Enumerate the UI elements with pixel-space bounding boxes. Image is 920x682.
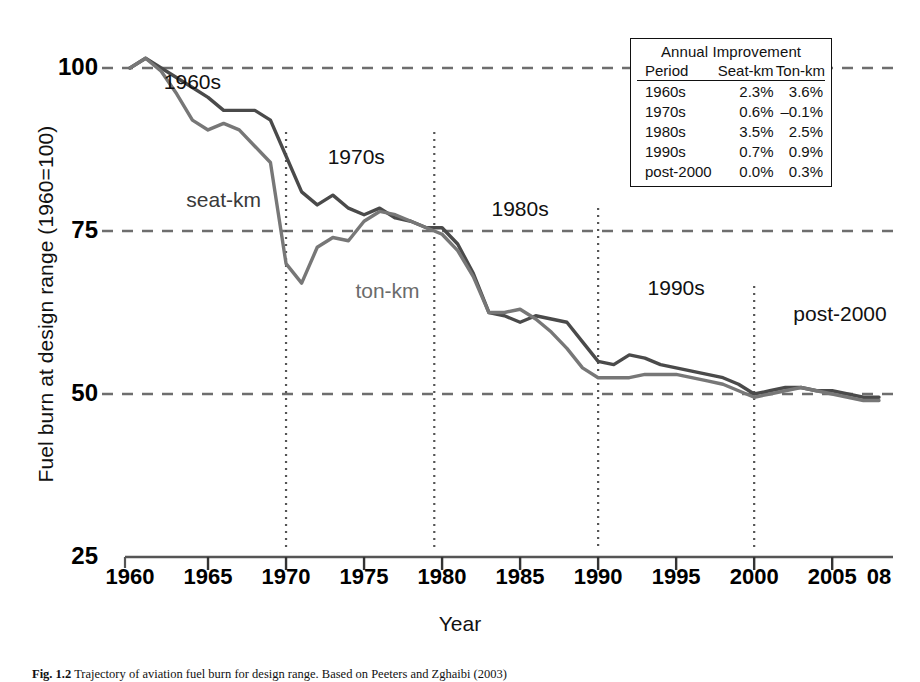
- legend-cell-ton-km: 0.9%: [774, 141, 825, 161]
- legend-cell-seat-km: 0.0%: [715, 161, 773, 181]
- y-tick-label-75: 75: [2, 218, 98, 242]
- legend-title: Annual Improvement: [637, 42, 825, 62]
- legend-header-row: Period Seat-km Ton-km: [637, 62, 825, 81]
- legend-row: 1970s0.6%–0.1%: [637, 101, 825, 121]
- x-tick-label-1985: 1985: [480, 566, 560, 588]
- y-tick-label-25: 25: [2, 544, 98, 568]
- legend-row: 1960s2.3%3.6%: [637, 81, 825, 102]
- figure-root: Fuel burn at design range (1960=100) Yea…: [0, 0, 920, 682]
- legend-cell-seat-km: 0.6%: [715, 101, 773, 121]
- legend-row: 1980s3.5%2.5%: [637, 121, 825, 141]
- period-label-1960s: 1960s: [164, 70, 221, 94]
- legend-row: post-20000.0%0.3%: [637, 161, 825, 181]
- x-tick-label-2000: 2000: [714, 566, 794, 588]
- period-label-1990s: 1990s: [648, 276, 705, 300]
- x-tick-label-2008: 08: [839, 566, 919, 588]
- period-label-1980s: 1980s: [491, 197, 548, 221]
- legend-col-ton-km: Ton-km: [774, 62, 825, 81]
- legend-cell-period: 1960s: [637, 81, 715, 102]
- x-tick-label-1965: 1965: [168, 566, 248, 588]
- y-tick-label-50: 50: [2, 381, 98, 405]
- legend-cell-seat-km: 3.5%: [715, 121, 773, 141]
- legend-cell-ton-km: 0.3%: [774, 161, 825, 181]
- annual-improvement-legend: Annual Improvement Period Seat-km Ton-km…: [630, 38, 832, 187]
- legend-body: 1960s2.3%3.6%1970s0.6%–0.1%1980s3.5%2.5%…: [637, 81, 825, 182]
- legend-cell-seat-km: 0.7%: [715, 141, 773, 161]
- x-tick-label-1960: 1960: [90, 566, 170, 588]
- legend-col-period: Period: [637, 62, 715, 81]
- period-dividers-group: [286, 132, 754, 548]
- figure-caption: Fig. 1.2 Trajectory of aviation fuel bur…: [32, 666, 892, 682]
- x-tick-label-1970: 1970: [246, 566, 326, 588]
- x-tick-label-1995: 1995: [636, 566, 716, 588]
- period-label-post-2000: post-2000: [793, 302, 886, 326]
- legend-row: 1990s0.7%0.9%: [637, 141, 825, 161]
- legend-cell-period: 1970s: [637, 101, 715, 121]
- legend-cell-period: post-2000: [637, 161, 715, 181]
- x-tick-label-1990: 1990: [558, 566, 638, 588]
- legend-cell-ton-km: 3.6%: [774, 81, 825, 102]
- legend-col-seat-km: Seat-km: [715, 62, 773, 81]
- legend-cell-ton-km: –0.1%: [774, 101, 825, 121]
- series-label-ton-km: ton-km: [355, 279, 419, 303]
- legend-cell-seat-km: 2.3%: [715, 81, 773, 102]
- legend-cell-period: 1990s: [637, 141, 715, 161]
- series-label-seat-km: seat-km: [186, 188, 261, 212]
- caption-text: Trajectory of aviation fuel burn for des…: [74, 667, 507, 681]
- x-tick-label-1975: 1975: [324, 566, 404, 588]
- period-label-1970s: 1970s: [328, 145, 385, 169]
- legend-cell-period: 1980s: [637, 121, 715, 141]
- y-tick-label-100: 100: [2, 55, 98, 79]
- caption-figure-number: Fig. 1.2: [32, 667, 71, 681]
- x-tick-label-1980: 1980: [402, 566, 482, 588]
- legend-table: Period Seat-km Ton-km 1960s2.3%3.6%1970s…: [637, 62, 825, 181]
- legend-cell-ton-km: 2.5%: [774, 121, 825, 141]
